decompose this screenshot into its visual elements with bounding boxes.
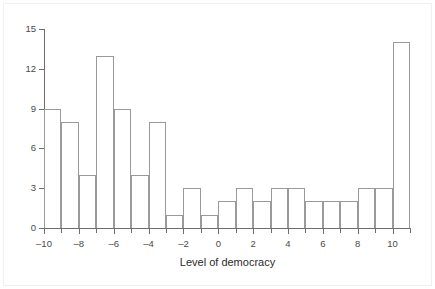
x-tick-mark: [44, 229, 45, 234]
x-tick-mark: [79, 229, 80, 234]
histogram-bar: [375, 188, 392, 228]
y-tick-label-wrap: 12: [0, 64, 36, 74]
histogram-figure: 03691215 –10–8–6–4–20246810 Level of dem…: [0, 0, 435, 289]
histogram-bar: [340, 201, 357, 228]
x-tick-label: 6: [308, 238, 338, 249]
y-tick-label: 6: [6, 143, 36, 153]
histogram-bar: [358, 188, 375, 228]
y-tick-label-wrap: 6: [0, 143, 36, 153]
histogram-bar: [149, 122, 166, 228]
x-tick-label: 0: [203, 238, 233, 249]
x-axis-title: Level of democracy: [44, 256, 411, 268]
x-tick-label: –4: [134, 238, 164, 249]
histogram-bar: [305, 201, 322, 228]
x-minor-tick-mark: [61, 229, 62, 233]
histogram-bar: [323, 201, 340, 228]
x-tick-mark: [253, 229, 254, 234]
histogram-bar: [44, 109, 61, 228]
histogram-bar: [218, 201, 235, 228]
histogram-bar: [201, 215, 218, 228]
x-tick-mark: [183, 229, 184, 234]
y-tick-label: 15: [6, 24, 36, 34]
x-tick-mark: [393, 229, 394, 234]
histogram-bar: [114, 109, 131, 228]
y-tick-label-wrap: 15: [0, 24, 36, 34]
x-minor-tick-mark: [201, 229, 202, 233]
x-minor-tick-mark: [410, 229, 411, 233]
y-tick-label: 0: [6, 223, 36, 233]
x-tick-label: 2: [238, 238, 268, 249]
x-minor-tick-mark: [236, 229, 237, 233]
histogram-bar: [393, 42, 410, 228]
x-minor-tick-mark: [305, 229, 306, 233]
x-tick-mark: [218, 229, 219, 234]
y-tick-label-wrap: 3: [0, 183, 36, 193]
histogram-bar: [236, 188, 253, 228]
x-minor-tick-mark: [375, 229, 376, 233]
x-tick-label: –8: [64, 238, 94, 249]
x-tick-label: 8: [343, 238, 373, 249]
x-minor-tick-mark: [131, 229, 132, 233]
x-tick-mark: [114, 229, 115, 234]
y-tick-label: 12: [6, 64, 36, 74]
y-tick-label: 9: [6, 104, 36, 114]
x-tick-mark: [288, 229, 289, 234]
y-tick-label: 3: [6, 183, 36, 193]
histogram-bar: [131, 175, 148, 228]
histogram-bar: [96, 56, 113, 228]
histogram-bar: [288, 188, 305, 228]
x-tick-label: 4: [273, 238, 303, 249]
y-tick-label-wrap: 9: [0, 104, 36, 114]
x-minor-tick-mark: [271, 229, 272, 233]
x-minor-tick-mark: [166, 229, 167, 233]
x-axis-line: [44, 228, 411, 229]
histogram-bar: [253, 201, 270, 228]
x-tick-label: –10: [29, 238, 59, 249]
x-tick-label: –2: [168, 238, 198, 249]
plot-area: [44, 29, 410, 228]
x-tick-mark: [323, 229, 324, 234]
histogram-bar: [271, 188, 288, 228]
x-tick-label: 10: [378, 238, 408, 249]
x-tick-mark: [149, 229, 150, 234]
x-minor-tick-mark: [96, 229, 97, 233]
x-minor-tick-mark: [340, 229, 341, 233]
x-tick-mark: [358, 229, 359, 234]
x-tick-label: –6: [99, 238, 129, 249]
histogram-bar: [79, 175, 96, 228]
histogram-bar: [183, 188, 200, 228]
y-tick-label-wrap: 0: [0, 223, 36, 233]
histogram-bar: [61, 122, 78, 228]
histogram-bar: [166, 215, 183, 228]
